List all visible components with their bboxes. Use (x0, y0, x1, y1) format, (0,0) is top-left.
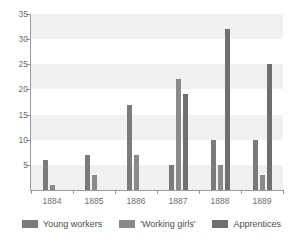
x-tick-label: 1889 (253, 196, 272, 206)
bars-layer (31, 14, 283, 190)
bar (169, 165, 174, 190)
bar (267, 64, 272, 190)
chart-legend: Young workers'Working girls'Apprentices (0, 219, 303, 229)
x-tick-label: 1888 (211, 196, 230, 206)
x-tick-mark (115, 190, 116, 194)
legend-label: Young workers (43, 219, 102, 229)
bar (253, 140, 258, 190)
legend-swatch-icon (212, 220, 228, 228)
bar (176, 79, 181, 190)
x-tick-label: 1886 (127, 196, 146, 206)
x-tick-label: 1884 (43, 196, 62, 206)
legend-item[interactable]: Apprentices (212, 219, 281, 229)
y-tick-label: 15 (19, 110, 28, 120)
bar (211, 140, 216, 190)
bar-group (31, 14, 73, 190)
y-tick-label: 5 (23, 160, 28, 170)
x-tick-label: 1885 (85, 196, 104, 206)
y-tick-label: 20 (19, 84, 28, 94)
y-tick-label: 10 (19, 135, 28, 145)
bar-group (241, 14, 283, 190)
bar (183, 94, 188, 190)
legend-label: 'Working girls' (140, 219, 195, 229)
bar (225, 29, 230, 190)
bar-group (73, 14, 115, 190)
x-tick-mark (283, 190, 284, 194)
chart-title-fragment (22, 0, 282, 4)
bar (43, 160, 48, 190)
y-tick-label: 25 (19, 59, 28, 69)
bar (127, 105, 132, 190)
bar (260, 175, 265, 190)
legend-swatch-icon (22, 220, 38, 228)
bar (50, 185, 55, 190)
bar-group (115, 14, 157, 190)
legend-label: Apprentices (233, 219, 281, 229)
bar-group (157, 14, 199, 190)
bar (218, 165, 223, 190)
x-tick-mark (31, 190, 32, 194)
legend-item[interactable]: Young workers (22, 219, 102, 229)
bar (92, 175, 97, 190)
bar (85, 155, 90, 190)
y-tick-label: 30 (19, 34, 28, 44)
x-tick-mark (73, 190, 74, 194)
bar (134, 155, 139, 190)
x-tick-label: 1887 (169, 196, 188, 206)
plot-wrapper: 5101520253035 188418851886188718881889 (0, 14, 303, 192)
legend-item[interactable]: 'Working girls' (119, 219, 195, 229)
x-tick-mark (241, 190, 242, 194)
bar-group (199, 14, 241, 190)
bar-chart-figure: 5101520253035 188418851886188718881889 Y… (0, 0, 303, 248)
y-tick-label: 35 (19, 9, 28, 19)
x-tick-mark (157, 190, 158, 194)
x-tick-mark (199, 190, 200, 194)
legend-swatch-icon (119, 220, 135, 228)
